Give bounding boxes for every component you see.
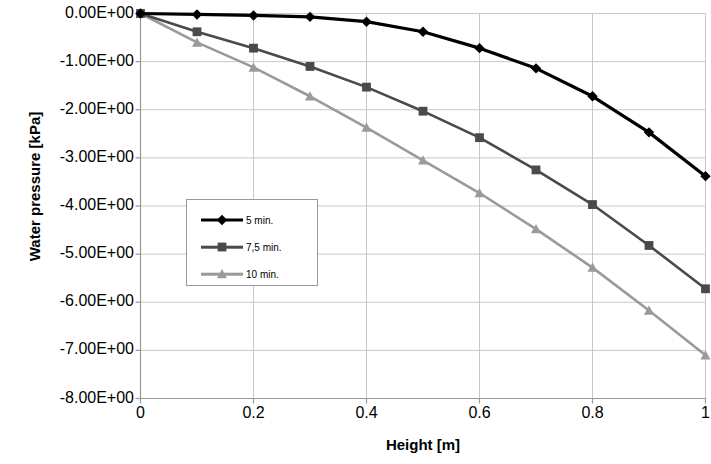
data-point-marker [588, 200, 597, 209]
legend-item: 7,5 min. [201, 241, 282, 253]
data-point-marker [248, 10, 258, 20]
data-point-marker [306, 62, 315, 71]
data-point-marker [701, 284, 710, 293]
legend-label: 10 min. [246, 269, 279, 280]
chart-container: 0.00E+00-1.00E+00-2.00E+00-3.00E+00-4.00… [0, 0, 711, 464]
legend-marker-diamond-icon [215, 213, 229, 227]
x-axis-tick-label: 0.4 [332, 404, 402, 422]
data-point-marker [475, 188, 485, 197]
y-axis-tick-label: -7.00E+00 [16, 341, 134, 357]
data-point-marker [217, 215, 227, 225]
x-axis-tick-label: 0.8 [558, 404, 628, 422]
data-point-marker [249, 44, 258, 53]
series-line [141, 14, 706, 356]
x-axis-tick-label: 0.2 [219, 404, 289, 422]
legend-swatch [201, 241, 243, 253]
data-point-marker [531, 63, 541, 73]
x-axis-title: Height [m] [140, 436, 706, 453]
data-point-marker [474, 43, 484, 53]
legend-label: 5 min. [246, 215, 273, 226]
data-point-marker [418, 27, 428, 37]
x-axis-tick-label: 0.6 [445, 404, 515, 422]
legend-item: 10 min. [201, 268, 279, 280]
legend-marker-square-icon [215, 240, 229, 254]
y-axis-tick-labels: 0.00E+00-1.00E+00-2.00E+00-3.00E+00-4.00… [0, 0, 134, 464]
x-axis-tick-label: 1 [671, 404, 711, 422]
data-point-marker [475, 133, 484, 142]
data-point-marker [362, 123, 372, 132]
data-point-marker [532, 166, 541, 175]
legend-swatch [201, 214, 243, 226]
data-point-marker [645, 241, 654, 250]
data-point-marker [193, 27, 202, 36]
data-point-marker [362, 83, 371, 92]
legend-swatch [201, 268, 243, 280]
legend: 5 min.7,5 min.10 min. [186, 199, 318, 286]
data-point-marker [192, 9, 202, 19]
x-axis-tick-label: 0 [106, 404, 176, 422]
y-axis-title: Water pressure [kPa] [26, 57, 43, 317]
data-point-marker [418, 155, 428, 164]
data-point-marker [419, 107, 428, 116]
y-axis-tick-label: 0.00E+00 [16, 5, 134, 21]
data-point-marker [361, 16, 371, 26]
legend-marker-triangle-icon [215, 267, 229, 281]
series-line [141, 14, 706, 177]
data-point-marker [217, 269, 227, 278]
data-point-marker [218, 243, 227, 252]
legend-label: 7,5 min. [246, 242, 282, 253]
legend-item: 5 min. [201, 214, 273, 226]
